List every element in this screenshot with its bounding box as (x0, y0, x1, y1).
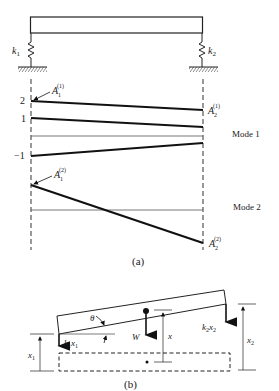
label-A2-mode1: A2(1) (207, 103, 220, 118)
x2-label: x2 (246, 335, 254, 346)
spring-k2-label: k2 (208, 45, 216, 58)
label-A1-mode2: A1(2) (53, 167, 66, 182)
dimension-x1 (30, 334, 54, 371)
mode1-line-1 (31, 118, 203, 127)
caption-b: (b) (124, 378, 137, 391)
label-A1-mode1: A1(1) (51, 83, 64, 98)
part-a: k1 k2 2 1 −1 A1(1) A2(1) (12, 17, 261, 268)
tick-1: 1 (21, 113, 26, 124)
mode1-label: Mode 1 (232, 129, 260, 139)
mode1-line-2 (31, 101, 203, 110)
mode2-label: Mode 2 (233, 202, 261, 212)
tick-2: 2 (20, 95, 25, 106)
ground-left (18, 67, 47, 72)
tick-minus-1: −1 (14, 150, 25, 161)
spring-right (199, 33, 205, 67)
spring-left (28, 33, 34, 67)
equilibrium-position (59, 353, 230, 371)
two-dof-beam-diagram: k1 k2 2 1 −1 A1(1) A2(1) (0, 0, 279, 391)
beam (31, 17, 203, 33)
weight-label: W (132, 332, 141, 342)
label-A2-mode2: A2(2) (208, 236, 221, 251)
mode2-line (31, 185, 203, 243)
spring-k1-label: k1 (12, 45, 20, 58)
caption-a: (a) (132, 255, 145, 268)
x-label: x (167, 331, 172, 341)
theta-arrow (96, 316, 104, 325)
theta-small-arrow (104, 336, 106, 343)
part-b: θ k1x1 x1 W x k2x2 (27, 290, 256, 391)
arrow-a1-mode1 (34, 92, 50, 100)
theta-label: θ (90, 313, 95, 323)
ground-right (189, 67, 218, 72)
x1-label: x1 (27, 350, 35, 361)
mode1-line-minus1 (31, 143, 203, 156)
arrow-a1-mode2 (34, 176, 52, 184)
equilibrium-cg-dot (146, 361, 149, 364)
force-k1x1-label: k1x1 (64, 338, 78, 349)
tilted-beam (57, 290, 226, 334)
force-k2x2-label: k2x2 (202, 322, 216, 333)
